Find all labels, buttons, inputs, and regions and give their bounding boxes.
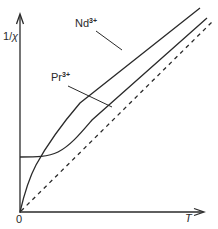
- y-axis-label: 1/χ: [3, 31, 18, 42]
- nd3-curve: [20, 8, 200, 212]
- nd3-annotation-base: Nd: [75, 17, 89, 29]
- pr3-annotation-charge: 3+: [62, 71, 70, 78]
- nd3-leader-line: [96, 31, 122, 50]
- pr3-annotation-base: Pr: [51, 71, 62, 83]
- pr3-leader-line: [68, 86, 112, 107]
- curie-law-dashed-line: [21, 22, 212, 211]
- pr3-annotation: Pr3+: [51, 72, 70, 83]
- pr3-curve: [20, 18, 207, 157]
- nd3-annotation: Nd3+: [75, 18, 97, 29]
- y-axis-label-chi: χ: [12, 30, 18, 42]
- origin-label: 0: [16, 214, 22, 225]
- nd3-annotation-charge: 3+: [89, 17, 97, 24]
- chart-canvas: [0, 0, 218, 229]
- x-axis-label: T: [185, 213, 192, 224]
